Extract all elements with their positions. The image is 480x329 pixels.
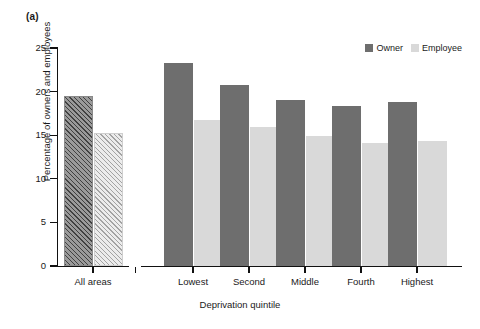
y-axis-tick bbox=[50, 222, 57, 223]
bar-all-areas-employee bbox=[94, 133, 123, 266]
x-axis-tick bbox=[248, 267, 249, 273]
bar-second-owner bbox=[220, 85, 249, 266]
bar-lowest-employee bbox=[194, 120, 223, 266]
y-axis-tick-label: 0 bbox=[26, 260, 46, 271]
plot-area bbox=[58, 48, 462, 266]
bar-second-employee bbox=[250, 127, 279, 266]
bar-highest-owner bbox=[388, 102, 417, 266]
x-axis-tick bbox=[416, 267, 417, 273]
panel-label: (a) bbox=[26, 11, 39, 22]
bar-highest-employee bbox=[418, 141, 447, 266]
bar-lowest-owner bbox=[164, 63, 193, 266]
x-axis-break-tick bbox=[135, 267, 136, 273]
x-axis-tick-label: Highest bbox=[401, 276, 433, 287]
x-axis-tick-label: Middle bbox=[291, 276, 319, 287]
x-axis-title: Deprivation quintile bbox=[0, 299, 480, 310]
bar-middle-employee bbox=[306, 136, 335, 266]
x-axis-tick-label: Fourth bbox=[347, 276, 374, 287]
bar-fourth-owner bbox=[332, 106, 361, 266]
x-axis-tick bbox=[92, 267, 93, 273]
x-axis-tick-label: All areas bbox=[75, 276, 112, 287]
x-axis-tick-label: Lowest bbox=[178, 276, 208, 287]
x-axis-tick bbox=[360, 267, 361, 273]
x-axis-tick bbox=[192, 267, 193, 273]
y-axis-title: Percentage of owners and employees bbox=[41, 0, 52, 222]
x-axis-tick-label: Second bbox=[233, 276, 265, 287]
bar-fourth-employee bbox=[362, 143, 391, 266]
x-axis-tick bbox=[304, 267, 305, 273]
bar-middle-owner bbox=[276, 100, 305, 266]
x-axis-line-segment-right bbox=[141, 266, 462, 267]
y-axis-tick bbox=[50, 265, 57, 266]
bar-all-areas-owner bbox=[64, 96, 93, 266]
figure-panel-a: (a) Owner Employee 0510152025 All areasL… bbox=[0, 0, 480, 329]
